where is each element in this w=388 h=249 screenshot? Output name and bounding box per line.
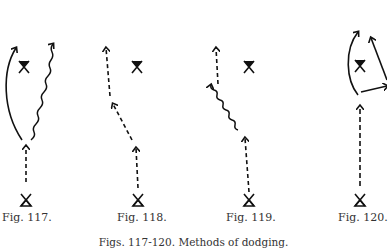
run-arrow	[106, 48, 110, 96]
run-arrow	[361, 86, 387, 92]
run-arrow	[348, 32, 358, 95]
fig-118-diagram	[106, 48, 143, 206]
fig-117-label: Fig. 117.	[2, 211, 52, 224]
attacker-icon	[355, 194, 365, 206]
fig-117-diagram	[6, 44, 53, 206]
dribble-arrow	[31, 44, 53, 140]
attacker-icon	[133, 194, 143, 206]
defender-icon	[19, 61, 29, 73]
pass-arrow	[136, 148, 138, 188]
fig-119-diagram	[211, 48, 254, 206]
pass-arrow	[245, 138, 249, 192]
fig-119-label: Fig. 119.	[226, 211, 276, 224]
fig-120-label: Fig. 120.	[338, 211, 388, 224]
run-arrow	[216, 48, 218, 84]
fig-118-label: Fig. 118.	[117, 211, 167, 224]
defender-icon	[355, 60, 365, 72]
run-arrow	[371, 38, 387, 80]
attacker-icon	[21, 194, 31, 206]
attacker-icon	[244, 194, 254, 206]
run-arrow	[113, 104, 132, 140]
figure-caption: Figs. 117-120. Methods of dodging.	[0, 236, 387, 248]
fig-120-diagram	[348, 32, 387, 206]
defender-icon	[132, 61, 142, 73]
dribble-arrow	[211, 85, 238, 130]
defender-icon	[244, 61, 254, 73]
